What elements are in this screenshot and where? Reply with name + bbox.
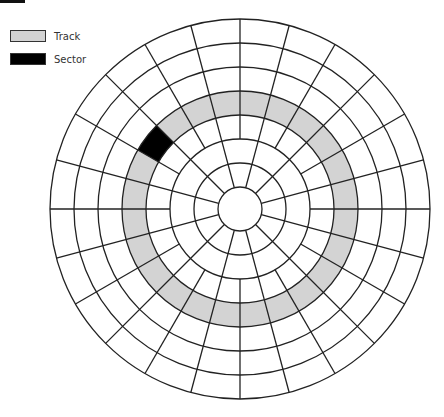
disk-lines bbox=[50, 19, 430, 399]
inner-sector-spoke bbox=[256, 225, 290, 259]
inner-sector-spoke bbox=[191, 225, 225, 259]
inner-sector-spoke bbox=[246, 141, 258, 187]
disk-diagram bbox=[0, 0, 444, 417]
inner-sector-spoke bbox=[246, 230, 258, 276]
inner-sector-spoke bbox=[256, 160, 290, 194]
inner-sector-spoke bbox=[222, 141, 234, 187]
inner-sector-spoke bbox=[261, 215, 307, 227]
inner-sector-spoke bbox=[191, 160, 225, 194]
inner-sector-spoke bbox=[172, 215, 218, 227]
track-boundary-circle bbox=[218, 187, 262, 231]
inner-sector-spoke bbox=[261, 191, 307, 203]
inner-sector-spoke bbox=[222, 230, 234, 276]
inner-sector-spoke bbox=[172, 191, 218, 203]
